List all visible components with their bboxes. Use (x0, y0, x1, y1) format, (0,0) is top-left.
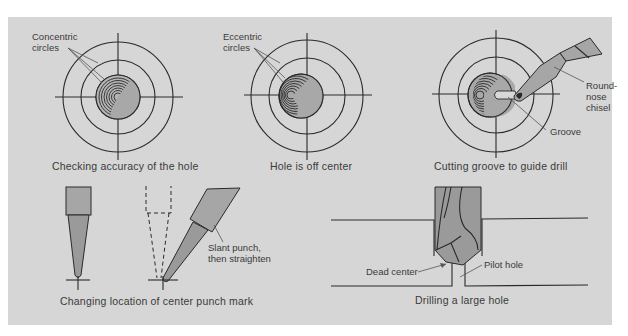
slant-label-line2: then straighten (208, 253, 271, 264)
eccentric-label-line1: Eccentric (223, 31, 262, 42)
concentric-label-line1: Concentric (32, 31, 78, 42)
dead-center-label: Dead center (366, 266, 418, 277)
caption-checking-accuracy: Checking accuracy of the hole (52, 160, 198, 172)
drilling-guide-figure: Concentric circles Checking accuracy of … (0, 0, 628, 336)
caption-hole-off-center: Hole is off center (270, 160, 352, 172)
caption-cutting-groove: Cutting groove to guide drill (434, 160, 568, 172)
chisel-label-line2: nose (586, 91, 607, 102)
caption-changing-punch-mark: Changing location of center punch mark (60, 295, 254, 307)
groove-label: Groove (550, 126, 581, 137)
chisel-label-line3: chisel (586, 102, 610, 113)
eccentric-label-line2: circles (223, 42, 250, 53)
chisel-label-line1: Round- (586, 80, 617, 91)
pilot-hole-label: Pilot hole (484, 259, 523, 270)
twist-drill (435, 187, 481, 265)
concentric-label-line2: circles (32, 42, 59, 53)
slant-label-line1: Slant punch, (208, 242, 261, 253)
caption-drilling-large-hole: Drilling a large hole (415, 294, 509, 306)
groove (495, 91, 517, 99)
